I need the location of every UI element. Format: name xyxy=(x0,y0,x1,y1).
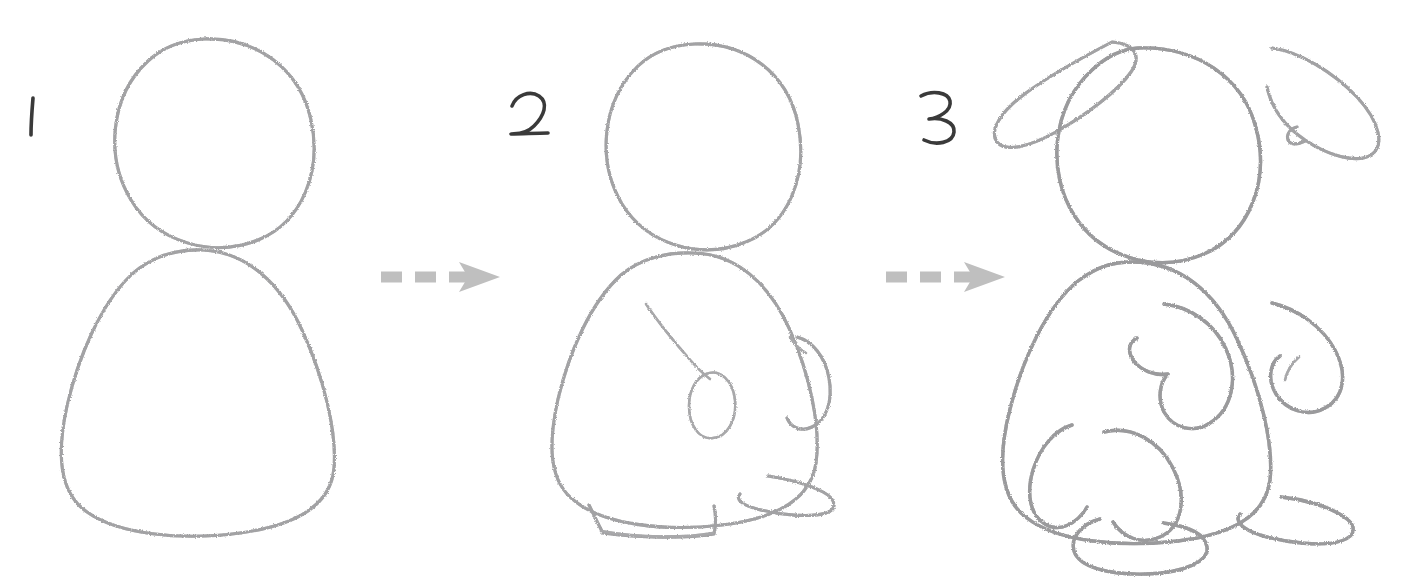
left-arm-thick-step3 xyxy=(1130,304,1233,429)
digit-1-stroke xyxy=(31,98,33,135)
body-pear-step3 xyxy=(1002,262,1270,544)
step-3-drawing xyxy=(921,42,1379,574)
step-1-drawing xyxy=(31,39,334,536)
right-arm-crease-step3 xyxy=(1285,357,1299,380)
head-circle-step1 xyxy=(115,39,314,248)
right-arm-thick-step3 xyxy=(1271,303,1343,412)
side-foot-step2 xyxy=(738,476,834,516)
left-arm-line-step2 xyxy=(646,304,710,379)
head-circle-step2 xyxy=(606,44,801,250)
step-3-number xyxy=(921,93,954,143)
left-ear-step3 xyxy=(994,42,1136,147)
step-2-number xyxy=(511,93,548,134)
right-ear-step3 xyxy=(1267,48,1379,159)
left-haunch-step3 xyxy=(1030,425,1087,528)
step-2-drawing xyxy=(511,44,834,537)
left-paw-loop-step2 xyxy=(689,373,735,439)
arrow-1-to-2 xyxy=(381,262,500,292)
tutorial-illustration xyxy=(0,0,1426,582)
arrow-2-to-3 xyxy=(886,262,1005,292)
body-pear-step2 xyxy=(552,253,817,528)
step-1-number xyxy=(31,98,33,135)
head-circle-step3 xyxy=(1057,48,1261,263)
back-foot-step3 xyxy=(1238,497,1353,544)
body-pear-step1 xyxy=(61,250,334,536)
digit-3-stroke xyxy=(921,93,954,143)
tutorial-canvas: 1 2 3 How to draw a bunny - 3 step penci… xyxy=(0,0,1426,582)
front-foot-step3 xyxy=(1073,519,1207,574)
digit-2-stroke xyxy=(511,93,548,134)
